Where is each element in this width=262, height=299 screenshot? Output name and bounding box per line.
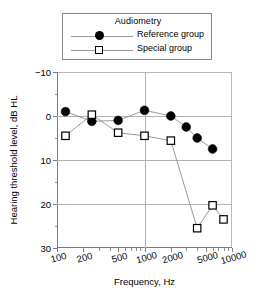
x-axis-tick-label: 5000	[195, 249, 218, 265]
data-point-filled-circle	[182, 123, 191, 132]
x-axis-minor-tick	[218, 248, 219, 251]
x-axis-minor-tick	[206, 248, 207, 251]
x-axis-title: Frequency, Hz	[57, 276, 232, 287]
data-point-open-square	[88, 111, 95, 118]
plot-area: −10010203010020050010002000500010000	[57, 72, 232, 248]
x-axis-minor-tick	[131, 248, 132, 251]
y-axis-tick-label: 30	[40, 243, 51, 254]
legend-entry-special-group: Special group	[63, 43, 213, 57]
data-point-filled-circle	[208, 145, 217, 154]
data-series-layer	[57, 72, 232, 248]
x-axis-tick-label: 100	[49, 250, 67, 265]
data-point-open-square	[193, 225, 200, 232]
data-point-open-square	[141, 132, 148, 139]
data-point-filled-circle	[166, 112, 175, 121]
data-point-open-square	[114, 129, 121, 136]
data-point-open-square	[62, 132, 69, 139]
x-axis-minor-tick	[186, 248, 187, 251]
x-axis-minor-tick	[140, 248, 141, 251]
x-axis-minor-tick	[228, 248, 229, 251]
x-axis-tick-label: 2000	[161, 249, 184, 265]
y-axis-tick-label: −10	[35, 67, 51, 78]
data-point-filled-circle	[61, 107, 70, 116]
y-axis-tick-label: 20	[40, 199, 51, 210]
x-axis-minor-tick	[136, 248, 137, 251]
x-axis-minor-tick	[197, 248, 198, 251]
data-point-open-square	[209, 202, 216, 209]
legend-title: Audiometry	[63, 16, 213, 26]
x-axis-tick-label: 10000	[219, 248, 247, 266]
legend-label: Special group	[137, 43, 192, 53]
x-axis-minor-tick	[110, 248, 111, 251]
y-axis-tick-label: 10	[40, 155, 51, 166]
legend-entry-reference-group: Reference group	[63, 29, 213, 43]
x-axis-tick-label: 200	[76, 250, 94, 265]
legend-label: Reference group	[137, 29, 204, 39]
y-axis-title: Hearing threshold level, dB HL	[8, 72, 22, 248]
data-point-filled-circle	[140, 106, 149, 115]
x-axis-minor-tick	[99, 248, 100, 251]
chart-legend: Audiometry Reference group Special group	[62, 13, 212, 60]
x-axis-minor-tick	[224, 248, 225, 251]
open-square-marker-icon	[95, 46, 103, 54]
data-point-open-square	[220, 216, 227, 223]
data-point-open-square	[167, 137, 174, 144]
data-point-filled-circle	[193, 134, 202, 143]
filled-circle-marker-icon	[95, 31, 104, 40]
audiometry-figure: Audiometry Reference group Special group…	[0, 0, 262, 299]
x-axis-tick-label: 500	[111, 250, 129, 265]
x-axis-tick-label: 1000	[134, 249, 157, 265]
data-point-filled-circle	[114, 116, 123, 125]
y-axis-tick-label: 0	[46, 111, 51, 122]
